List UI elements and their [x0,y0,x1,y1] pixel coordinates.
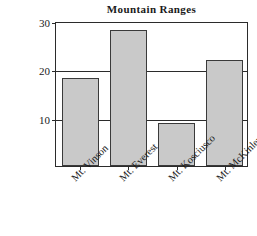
y-tick-label: 10 [39,114,50,125]
y-tick-label: 30 [39,18,50,29]
bar-chart: Mountain Ranges 102030 Elevation (in tho… [0,0,257,236]
y-tick-label: 20 [39,66,50,77]
bar [110,30,147,166]
y-tick-mark [52,71,56,72]
y-tick-mark [52,120,56,121]
y-axis-title: Elevation (in thousands of feet) [52,0,88,41]
